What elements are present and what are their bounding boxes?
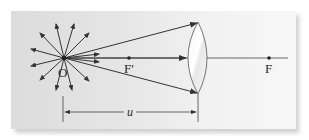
label-F-prime: F′ [124, 61, 134, 76]
focal-point-far [267, 56, 271, 60]
label-O: O [58, 65, 67, 80]
label-F: F [265, 61, 272, 76]
focal-point-near [127, 56, 131, 60]
lens-diagram: O F′ F u [0, 0, 309, 140]
convex-lens [188, 22, 207, 94]
label-u: u [127, 105, 133, 119]
object-point [62, 56, 66, 60]
dimension-arrow-left [64, 110, 70, 114]
dimension-arrow-right [191, 110, 197, 114]
